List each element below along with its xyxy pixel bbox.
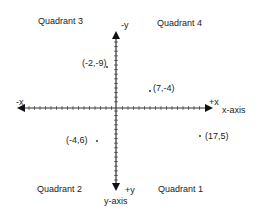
y-axis-label: y-axis: [104, 196, 128, 206]
point-marker: [149, 90, 151, 92]
pos-y-arrow-icon: [112, 183, 120, 191]
neg-y-arrow-icon: [112, 31, 120, 39]
quadrant-4-label: Quadrant 4: [157, 18, 202, 28]
point-marker: [106, 66, 108, 68]
quadrant-3-label: Quadrant 3: [38, 16, 83, 26]
quadrant-1-label: Quadrant 1: [158, 184, 203, 194]
point-label: (-4,6): [66, 135, 88, 145]
point-marker: [96, 140, 98, 142]
neg-x-label: -x: [16, 97, 24, 107]
x-axis-label: x-axis: [222, 105, 246, 115]
pos-x-label: +x: [209, 97, 219, 107]
point-marker: [199, 135, 201, 137]
pos-y-label: +y: [125, 185, 135, 195]
point-label: (-2,-9): [82, 58, 107, 68]
point-label: (17,5): [205, 131, 229, 141]
neg-y-label: -y: [121, 20, 129, 30]
point-label: (7,-4): [153, 83, 175, 93]
quadrant-2-label: Quadrant 2: [37, 184, 82, 194]
